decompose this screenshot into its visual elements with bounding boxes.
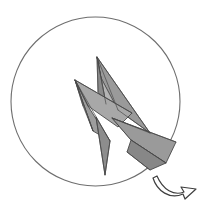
icon-canvas (0, 0, 204, 210)
origami-bolt-illustration (0, 0, 204, 210)
